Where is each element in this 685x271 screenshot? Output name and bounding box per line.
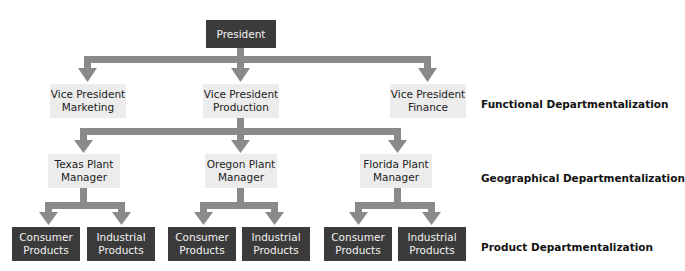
- florida-plant-manager-box: Florida Plant Manager: [360, 154, 432, 188]
- oregon-industrial-products-box: Industrial Products: [242, 227, 310, 261]
- texas-consumer-products-box: Consumer Products: [12, 227, 80, 261]
- texas-industrial-products-box: Industrial Products: [87, 227, 155, 261]
- texas-plant-manager-box: Texas Plant Manager: [48, 154, 120, 188]
- vp-production-box: Vice President Production: [203, 84, 279, 118]
- florida-industrial-products-box: Industrial Products: [398, 227, 466, 261]
- product-level-label: Product Departmentalization: [481, 241, 653, 253]
- geographical-level-label: Geographical Departmentalization: [481, 172, 685, 184]
- oregon-plant-manager-box: Oregon Plant Manager: [205, 154, 277, 188]
- florida-consumer-products-box: Consumer Products: [324, 227, 392, 261]
- oregon-consumer-products-box: Consumer Products: [168, 227, 236, 261]
- functional-level-label: Functional Departmentalization: [481, 98, 668, 110]
- vp-finance-box: Vice President Finance: [390, 84, 466, 118]
- president-box: President: [206, 20, 276, 48]
- president-label: President: [217, 28, 266, 41]
- vp-marketing-box: Vice President Marketing: [50, 84, 126, 118]
